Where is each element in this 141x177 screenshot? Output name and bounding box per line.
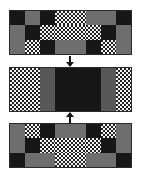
block-cell-grey: [25, 11, 40, 25]
block-cell-light: [101, 124, 116, 138]
block-cell-light: [10, 68, 40, 111]
block-cell-light: [40, 25, 55, 39]
block-cell-grey: [10, 40, 25, 54]
arrow-head-icon: [66, 112, 74, 117]
block-cell-grey: [10, 138, 25, 152]
panel-top: [9, 10, 132, 55]
arrow-head-icon: [66, 62, 74, 67]
block-cell-dark: [86, 40, 101, 54]
block-cell-light: [86, 25, 101, 39]
block-cell-light: [55, 11, 70, 25]
block-cell-dark: [86, 124, 101, 138]
block-cell-grey: [10, 124, 25, 138]
block-cell-dark: [40, 40, 55, 54]
block-cell-grey: [116, 138, 131, 152]
block-cell-light: [116, 68, 131, 111]
block-cell-grey: [101, 153, 116, 167]
block-cell-grey: [101, 11, 116, 25]
block-cell-light: [55, 25, 70, 39]
block-cell-light: [71, 153, 86, 167]
block-cell-dark: [116, 153, 131, 167]
block-cell-light: [40, 138, 55, 152]
block-cell-dark: [10, 153, 25, 167]
block-cell-midgrey: [101, 68, 116, 111]
block-cell-dark: [40, 11, 55, 25]
block-cell-grey: [116, 40, 131, 54]
block-cell-dark: [55, 68, 100, 111]
block-cell-grey: [71, 40, 86, 54]
block-cell-grey: [116, 124, 131, 138]
block-cell-light: [101, 40, 116, 54]
figure-canvas: [0, 0, 141, 177]
block-cell-dark: [25, 138, 40, 152]
block-cell-dark: [116, 11, 131, 25]
block-cell-grey: [116, 25, 131, 39]
block-cell-light: [86, 138, 101, 152]
block-cell-grey: [71, 124, 86, 138]
arrow-shaft: [69, 117, 71, 124]
block-cell-midgrey: [40, 68, 55, 111]
block-cell-light: [55, 153, 70, 167]
block-cell-light: [25, 124, 40, 138]
block-cell-dark: [25, 25, 40, 39]
block-cell-dark: [40, 124, 55, 138]
block-cell-dark: [10, 11, 25, 25]
block-cell-light: [71, 11, 86, 25]
block-cell-light: [71, 25, 86, 39]
block-cell-grey: [10, 25, 25, 39]
block-cell-grey: [25, 153, 40, 167]
panel-middle: [9, 67, 132, 112]
block-cell-grey: [55, 124, 70, 138]
arrow-down-top-to-middle: [66, 56, 75, 67]
block-cell-light: [25, 40, 40, 54]
block-cell-grey: [40, 153, 55, 167]
panel-bottom: [9, 123, 132, 168]
block-cell-light: [55, 138, 70, 152]
block-cell-dark: [101, 138, 116, 152]
arrow-up-bottom-to-middle: [66, 112, 75, 123]
block-cell-grey: [55, 40, 70, 54]
block-cell-grey: [86, 153, 101, 167]
block-cell-light: [71, 138, 86, 152]
block-cell-grey: [86, 11, 101, 25]
block-cell-dark: [101, 25, 116, 39]
